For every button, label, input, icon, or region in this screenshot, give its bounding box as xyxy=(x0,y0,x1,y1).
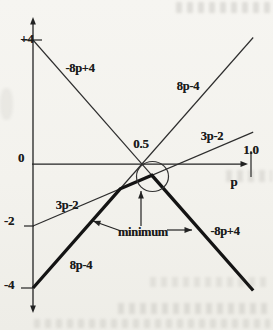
scanned-figure: +4 0 -2 -4 0.5 1.0 p -8p+4 8p-4 3p-2 3p-… xyxy=(0,0,273,330)
x-tick-label-1-0: 1.0 xyxy=(243,142,258,158)
y-axis-down-arrowhead xyxy=(30,306,36,314)
minimum-pointer-arrowhead xyxy=(93,221,101,227)
y-tick-label-neg2: -2 xyxy=(4,213,14,229)
minimum-pointer-arrowhead xyxy=(138,191,144,199)
series-line-8p-4 xyxy=(117,38,253,193)
minimum-pointer-arrowhead xyxy=(185,227,193,233)
line-label-neg8p4-upper: -8p+4 xyxy=(65,61,94,76)
minimum-annotation-label: minimum xyxy=(118,225,168,240)
x-axis-label-p: p xyxy=(231,174,238,190)
x-tick-label-0-5: 0.5 xyxy=(133,136,148,152)
line-label-8p4-lower: 8p-4 xyxy=(70,258,92,273)
y-tick-label-zero: 0 xyxy=(18,150,24,166)
figure-svg xyxy=(0,0,273,330)
line-label-8p4-upper: 8p-4 xyxy=(177,79,199,94)
y-tick-label-neg4: -4 xyxy=(4,277,14,293)
y-tick-label-plus4: +4 xyxy=(20,31,33,47)
line-label-3p2-left: 3p-2 xyxy=(56,198,78,213)
line-label-3p2-right: 3p-2 xyxy=(201,129,223,144)
line-label-neg8p4-lower: -8p+4 xyxy=(210,224,239,239)
y-axis-up-arrowhead xyxy=(30,17,36,25)
x-axis-arrowhead xyxy=(241,161,249,167)
